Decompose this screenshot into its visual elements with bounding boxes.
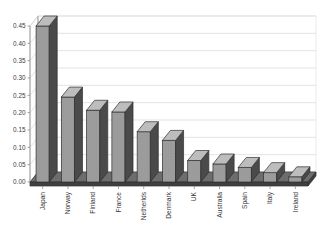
bar-side-face xyxy=(74,87,82,182)
x-category-label: Ireland xyxy=(292,192,299,212)
y-tick-label: 0.25 xyxy=(13,92,26,99)
x-category-label: UK xyxy=(190,191,197,201)
x-category-label: Australia xyxy=(216,192,223,218)
bar-texture xyxy=(87,110,100,182)
bar xyxy=(61,87,82,182)
y-tick-label: 0.30 xyxy=(13,74,26,81)
bar-side-face xyxy=(100,100,108,182)
y-tick-label: 0.40 xyxy=(13,40,26,47)
bar xyxy=(87,100,108,182)
y-tick-label: 0.05 xyxy=(13,161,26,168)
y-tick-label: 0.35 xyxy=(13,57,26,64)
bar-texture xyxy=(264,173,277,182)
bar-texture xyxy=(188,161,201,182)
bar-texture xyxy=(61,97,74,182)
bar xyxy=(137,122,158,182)
x-category-label: France xyxy=(115,192,122,213)
bar-side-face xyxy=(125,102,133,182)
bar-texture xyxy=(238,167,251,182)
bar-texture xyxy=(213,164,226,182)
bar-texture xyxy=(289,177,302,182)
y-tick-label: 0.10 xyxy=(13,144,26,151)
bar-texture xyxy=(112,112,125,182)
y-tick-label: 0.00 xyxy=(13,178,26,185)
bar-texture xyxy=(137,132,150,182)
bar-chart: 0.000.050.100.150.200.250.300.350.400.45… xyxy=(0,0,334,239)
bar-texture xyxy=(36,26,49,182)
y-tick-label: 0.20 xyxy=(13,109,26,116)
x-category-label: Denmark xyxy=(165,191,172,218)
x-category-label: Finland xyxy=(89,192,96,214)
bar xyxy=(36,16,57,182)
y-tick-label: 0.45 xyxy=(13,22,26,29)
bar-side-face xyxy=(49,16,57,182)
bar-texture xyxy=(162,140,175,182)
y-tick-label: 0.15 xyxy=(13,126,26,133)
bar xyxy=(162,130,183,182)
x-category-label: Netherlds xyxy=(140,191,147,220)
x-category-label: Norway xyxy=(64,191,72,214)
chart-canvas: 0.000.050.100.150.200.250.300.350.400.45… xyxy=(0,0,334,239)
bar xyxy=(112,102,133,182)
x-category-label: Japan xyxy=(39,192,47,210)
x-category-label: Italy xyxy=(266,191,274,204)
x-category-label: Spain xyxy=(241,192,249,209)
